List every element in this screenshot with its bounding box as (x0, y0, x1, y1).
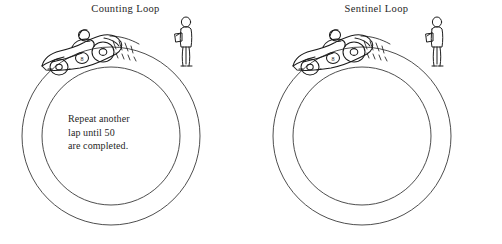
sentinel-loop-illustration: 8 (251, 0, 502, 244)
svg-text:8: 8 (81, 56, 84, 62)
speed-lines-icon (110, 36, 139, 61)
standing-observer-icon (175, 17, 192, 66)
track-outer-circle (273, 47, 451, 225)
car-rear-wheel (343, 42, 365, 62)
car-front-wheel (50, 59, 68, 75)
standing-observer-icon (426, 17, 443, 66)
svg-text:8: 8 (332, 56, 335, 62)
panel-counting-loop: Counting Loop (0, 0, 251, 244)
panel-sentinel-loop: Sentinel Loop (251, 0, 502, 244)
car-front-wheel (301, 59, 319, 75)
car-rear-wheel (92, 42, 114, 62)
loop-diagram-figure: Counting Loop (0, 0, 502, 244)
speed-lines-icon (361, 36, 390, 61)
caption-counting-loop: Repeat another lap until 50 are complete… (68, 112, 178, 153)
track-inner-circle (293, 67, 431, 205)
